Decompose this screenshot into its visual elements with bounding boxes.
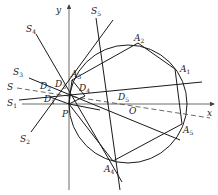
label-d3: D3: [54, 79, 66, 90]
label-p: P: [61, 109, 69, 119]
label-s3: S3: [13, 67, 23, 78]
label-d1: D1: [43, 94, 55, 105]
label-a2: A2: [133, 33, 145, 44]
label-d2: D2: [39, 81, 51, 92]
x-axis-label: x: [207, 108, 212, 118]
line-s3: [29, 78, 180, 140]
label-o: O: [129, 106, 137, 116]
label-s: S: [7, 82, 13, 92]
label-a5: A5: [182, 125, 194, 136]
y-axis-label: y: [55, 5, 62, 15]
label-s1: S1: [7, 98, 17, 109]
label-d4: D4: [78, 83, 90, 94]
label-d5: D5: [117, 92, 129, 103]
label-a1: A1: [179, 64, 190, 75]
geometry-figure: y x S1 S S3 S2 S4 S5 A2 A1 A3 A5 A4 D2 D…: [0, 0, 218, 195]
label-s5: S5: [91, 6, 101, 17]
label-s2: S2: [20, 134, 30, 145]
label-s4: S4: [26, 24, 36, 35]
